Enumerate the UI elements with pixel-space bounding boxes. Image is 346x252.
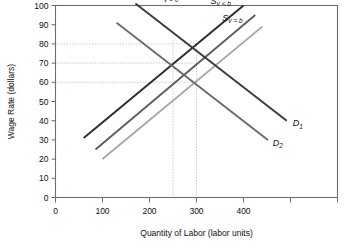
x-tick-label: 300 xyxy=(189,206,203,216)
label-s-v-0: Sv = 0 xyxy=(158,0,179,3)
y-tick-label: 40 xyxy=(39,116,49,126)
y-tick-label: 60 xyxy=(39,77,49,87)
y-tick-label: 70 xyxy=(39,58,49,68)
y-tick-label: 10 xyxy=(39,173,49,183)
curve-labels-group: Sv = 0Sv < bSv = bD1D2 xyxy=(158,0,303,149)
y-tick-label: 0 xyxy=(44,193,49,203)
guide-lines-group xyxy=(56,40,197,197)
y-tick-label: 90 xyxy=(39,20,49,30)
axis-ticks xyxy=(52,6,338,203)
x-tick-label: 100 xyxy=(95,206,109,216)
label-d-1: D1 xyxy=(293,118,304,129)
y-tick-label: 80 xyxy=(39,39,49,49)
tick-labels-group: 01020304050607080901000100200300400 xyxy=(34,1,251,216)
y-tick-label: 100 xyxy=(34,1,48,11)
curve-d-1 xyxy=(135,4,286,121)
chart-canvas: 01020304050607080901000100200300400 Sv =… xyxy=(0,0,346,252)
chart-figure: 01020304050607080901000100200300400 Sv =… xyxy=(0,0,346,252)
plot-frame xyxy=(56,6,338,198)
curves-group xyxy=(84,4,287,160)
x-tick-label: 200 xyxy=(142,206,156,216)
curve-s-v-b xyxy=(103,27,263,159)
label-d-2: D2 xyxy=(273,138,284,149)
y-tick-label: 20 xyxy=(39,154,49,164)
x-axis-title: Quantity of Labor (labor units) xyxy=(140,228,253,238)
x-tick-label: 0 xyxy=(53,206,58,216)
y-axis-title: Wage Rate (dollars) xyxy=(6,64,16,139)
plot-border xyxy=(56,6,338,198)
y-tick-label: 50 xyxy=(39,97,49,107)
y-tick-label: 30 xyxy=(39,135,49,145)
x-tick-label: 400 xyxy=(236,206,250,216)
